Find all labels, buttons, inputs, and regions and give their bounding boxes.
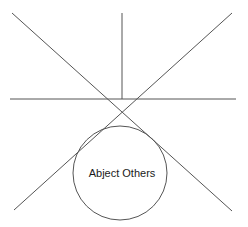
- diagram-svg: Abject Others: [0, 0, 248, 227]
- diagonal-ne-sw-line: [14, 13, 232, 210]
- diagram-canvas: Abject Others: [0, 0, 248, 227]
- abject-others-label: Abject Others: [89, 167, 156, 179]
